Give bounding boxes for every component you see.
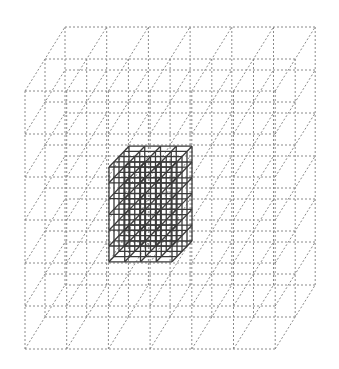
lattice-edge [234,156,274,220]
lattice-edge [234,27,274,91]
inner-solid-lattice [109,146,192,262]
lattice-edge [150,285,190,349]
lattice-edge [67,27,107,91]
lattice-edge [67,285,107,349]
lattice-edge [67,156,107,220]
lattice-edge [150,27,190,91]
lattice-diagram [0,0,339,369]
lattice-edge [234,285,274,349]
